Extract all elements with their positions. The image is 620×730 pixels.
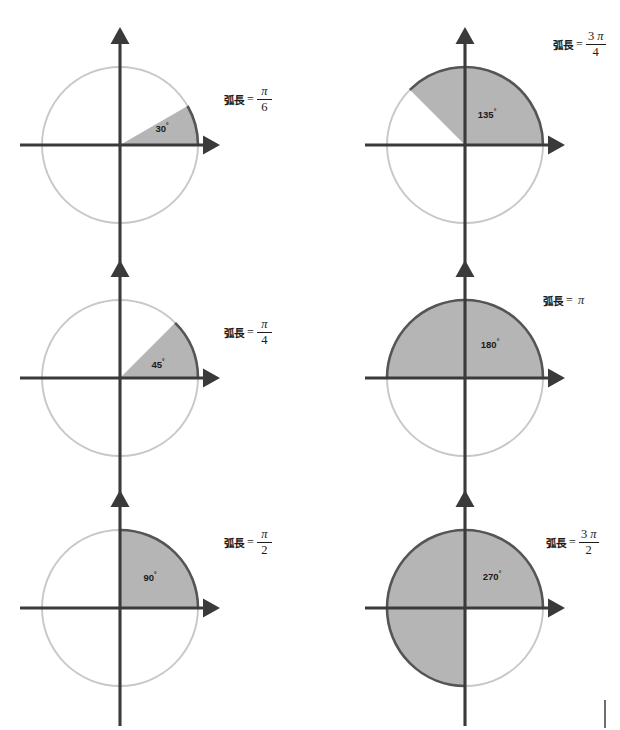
x-axis-arrowhead-icon	[548, 369, 565, 388]
equals-sign: =	[247, 325, 254, 340]
angle-degree-value: 30	[155, 123, 166, 134]
arc-length-term: 弧長	[543, 293, 563, 308]
y-axis-arrowhead-icon	[111, 260, 130, 277]
arc-length-fraction: π6	[257, 85, 272, 113]
arc-length-fraction: 3 π4	[586, 30, 606, 58]
unit-circle-panel-45: 45°	[0, 253, 270, 503]
fraction-denominator: 2	[259, 543, 269, 557]
angle-degree-value: 90	[143, 572, 154, 583]
unit-circle-panel-30: 30°	[0, 20, 270, 270]
equals-sign: =	[566, 293, 573, 308]
unit-circle-figure-grid: 30°弧長=π6135°弧長=3 π445°弧長=π4180°弧長=π90°弧長…	[0, 0, 620, 730]
numerator-pi-symbol: π	[261, 527, 267, 541]
angle-degree-value: 180	[481, 339, 497, 350]
fraction-numerator: π	[259, 528, 269, 542]
degree-symbol: °	[166, 122, 169, 129]
y-axis-arrowhead-icon	[456, 490, 475, 507]
arc-length-fraction: π2	[257, 528, 272, 556]
degree-symbol: °	[154, 571, 157, 578]
equals-sign: =	[576, 37, 583, 52]
arc-length-pi-symbol: π	[578, 293, 584, 308]
fraction-numerator: π	[259, 85, 269, 99]
x-axis-arrowhead-icon	[203, 599, 220, 618]
y-axis-arrowhead-icon	[111, 490, 130, 507]
unit-circle-panel-90: 90°	[0, 483, 270, 730]
y-axis-arrowhead-icon	[456, 260, 475, 277]
angle-degree-value: 270	[483, 571, 499, 582]
arc-length-label-270: 弧長=3 π2	[546, 528, 599, 556]
arc-length-label-180: 弧長=π	[543, 293, 584, 308]
numerator-pi-symbol: π	[261, 84, 267, 98]
fraction-numerator: 3 π	[586, 30, 606, 44]
x-axis-arrowhead-icon	[203, 369, 220, 388]
arc-length-term: 弧長	[224, 325, 244, 340]
unit-circle-panel-270: 270°	[315, 483, 615, 730]
arc-length-fraction: π4	[257, 318, 272, 346]
fraction-denominator: 4	[591, 45, 601, 59]
arc-length-term: 弧長	[546, 535, 566, 550]
degree-symbol: °	[162, 358, 165, 365]
angle-degree-value: 135	[478, 109, 495, 120]
fraction-numerator: π	[259, 318, 269, 332]
numerator-pi-symbol: π	[597, 29, 603, 43]
angle-degree-value: 45	[151, 359, 162, 370]
x-axis-arrowhead-icon	[548, 599, 565, 618]
x-axis-arrowhead-icon	[203, 136, 220, 155]
equals-sign: =	[247, 535, 254, 550]
numerator-pi-symbol: π	[590, 527, 596, 541]
y-axis-arrowhead-icon	[456, 27, 475, 44]
y-axis-arrowhead-icon	[111, 27, 130, 44]
numerator-coefficient: 3	[581, 527, 587, 541]
equals-sign: =	[569, 535, 576, 550]
arc-length-label-135: 弧長=3 π4	[553, 30, 606, 58]
arc-length-term: 弧長	[553, 37, 573, 52]
degree-symbol: °	[494, 108, 497, 115]
fraction-denominator: 6	[259, 100, 269, 114]
arc-length-label-30: 弧長=π6	[224, 85, 272, 113]
numerator-pi-symbol: π	[261, 317, 267, 331]
degree-symbol: °	[497, 338, 500, 345]
fraction-numerator: 3 π	[579, 528, 599, 542]
corner-tick-mark	[604, 700, 606, 728]
arc-length-term: 弧長	[224, 535, 244, 550]
fraction-denominator: 2	[584, 543, 594, 557]
fraction-denominator: 4	[259, 333, 269, 347]
numerator-coefficient: 3	[588, 29, 594, 43]
arc-length-label-45: 弧長=π4	[224, 318, 272, 346]
unit-circle-panel-180: 180°	[315, 253, 615, 503]
angle-sector-fill	[410, 67, 543, 145]
arc-length-label-90: 弧長=π2	[224, 528, 272, 556]
degree-symbol: °	[499, 570, 502, 577]
x-axis-arrowhead-icon	[548, 136, 565, 155]
equals-sign: =	[247, 92, 254, 107]
arc-length-fraction: 3 π2	[579, 528, 599, 556]
arc-length-term: 弧長	[224, 92, 244, 107]
